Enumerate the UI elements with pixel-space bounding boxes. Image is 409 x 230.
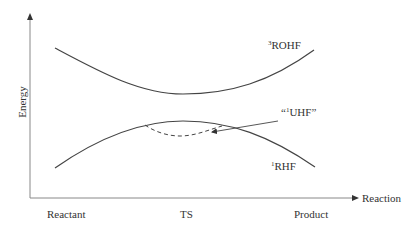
uhf-label-text: UHF xyxy=(289,106,311,118)
energy-diagram xyxy=(0,0,409,230)
x-axis-arrow-icon xyxy=(352,195,359,201)
rhf-label-superscript: 1 xyxy=(271,160,275,168)
rohf-label-superscript: 3 xyxy=(268,39,272,47)
x-tick-reactant: Reactant xyxy=(47,208,85,220)
rhf-label: 1RHF xyxy=(271,160,296,172)
y-axis-label: Energy xyxy=(16,82,28,122)
rohf-curve xyxy=(55,48,314,94)
y-axis-arrow-icon xyxy=(27,13,33,20)
rhf-label-text: RHF xyxy=(275,160,296,172)
x-tick-ts: TS xyxy=(180,208,193,220)
x-axis-label: Reaction xyxy=(362,192,401,204)
uhf-label: “1UHF” xyxy=(281,106,316,118)
rohf-label: 3ROHF xyxy=(268,39,301,51)
rohf-label-text: ROHF xyxy=(272,39,301,51)
uhf-label-superscript: 1 xyxy=(286,106,290,114)
x-tick-product: Product xyxy=(294,208,328,220)
uhf-dashed-curve xyxy=(145,125,222,136)
